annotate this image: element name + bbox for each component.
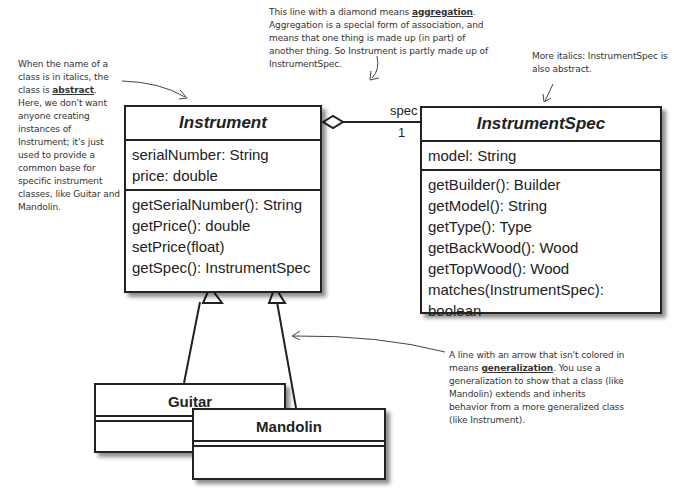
attributes-section: serialNumber: String price: double xyxy=(126,141,320,191)
class-name: Mandolin xyxy=(194,410,384,440)
class-instrument-spec[interactable]: InstrumentSpec model: String getBuilder(… xyxy=(420,106,662,314)
method: setPrice(float) xyxy=(132,236,314,257)
more-italics-note: More italics: InstrumentSpec is also abs… xyxy=(532,50,672,76)
generalization-line-guitar xyxy=(184,302,200,383)
aggregation-diamond xyxy=(323,116,343,128)
method: getBuilder(): Builder xyxy=(428,174,654,195)
methods-section: getSerialNumber(): String getPrice(): do… xyxy=(126,191,320,281)
italics-note-arrowhead xyxy=(543,94,551,102)
method: getModel(): String xyxy=(428,195,654,216)
generalization-keyword: generalization xyxy=(481,363,553,373)
abstract-note: When the name of a class is in italics, … xyxy=(18,58,122,214)
attributes-section: model: String xyxy=(422,142,660,171)
method: getTopWood(): Wood xyxy=(428,258,654,279)
method: matches(InstrumentSpec): boolean xyxy=(428,279,654,321)
generalization-note: A line with an arrow that isn't colored … xyxy=(449,349,625,427)
class-name: InstrumentSpec xyxy=(422,108,660,142)
generalization-note-arrow xyxy=(293,336,445,352)
attribute: price: double xyxy=(132,165,314,186)
association-role-label: spec xyxy=(390,103,417,118)
method: getBackWood(): Wood xyxy=(428,237,654,258)
empty-compartment-divider xyxy=(194,440,384,447)
method: getSpec(): InstrumentSpec xyxy=(132,257,314,278)
class-name: Instrument xyxy=(126,107,320,141)
attribute: serialNumber: String xyxy=(132,144,314,165)
italics-note-arrow xyxy=(545,84,553,101)
methods-section: getBuilder(): Builder getModel(): String… xyxy=(422,171,660,324)
class-instrument[interactable]: Instrument serialNumber: String price: d… xyxy=(124,105,322,293)
method: getType(): Type xyxy=(428,216,654,237)
attribute: model: String xyxy=(428,145,654,166)
aggregation-keyword: aggregation xyxy=(412,7,473,17)
abstract-keyword: abstract xyxy=(52,85,94,95)
method: getSerialNumber(): String xyxy=(132,194,314,215)
class-mandolin[interactable]: Mandolin xyxy=(192,408,386,480)
method: getPrice(): double xyxy=(132,215,314,236)
association-multiplicity-label: 1 xyxy=(398,125,405,140)
aggregation-note: This line with a diamond means aggregati… xyxy=(269,6,501,71)
abstract-note-arrow xyxy=(122,81,185,97)
